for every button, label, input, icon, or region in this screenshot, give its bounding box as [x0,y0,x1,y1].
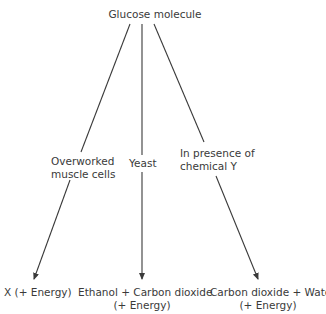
root-node-label: Glucose molecule [95,8,215,21]
product-carbon-dioxide-water: Carbon dioxide + Water (+ Energy) [210,286,326,312]
right-branch-arrow [216,176,258,279]
product-line-1: Ethanol + Carbon dioxide [78,286,206,299]
condition-line-2: chemical Y [180,160,255,173]
condition-line-1: Overworked [51,155,115,168]
right-branch-line-upper [154,24,204,142]
diagram-arrows [0,0,326,314]
condition-line-2: muscle cells [51,168,115,181]
product-line-2: (+ Energy) [78,299,206,312]
product-line-1: Carbon dioxide + Water [210,286,326,299]
condition-line-1: In presence of [180,147,255,160]
condition-chemical-y: In presence of chemical Y [180,147,255,173]
left-branch-line-upper [81,24,130,152]
condition-overworked-muscle: Overworked muscle cells [51,155,115,181]
product-x: X (+ Energy) [4,286,72,299]
product-ethanol: Ethanol + Carbon dioxide (+ Energy) [78,286,206,312]
product-line-2: (+ Energy) [210,299,326,312]
condition-yeast: Yeast [129,157,157,170]
left-branch-arrow [34,180,70,279]
